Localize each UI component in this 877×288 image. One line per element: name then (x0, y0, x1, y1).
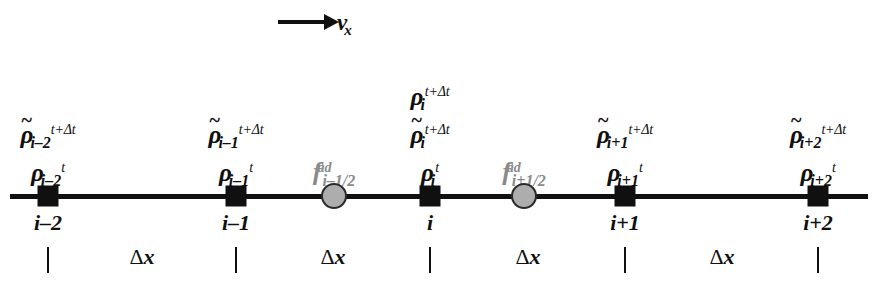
spacing-label-0: Δx (129, 244, 154, 270)
spacing-tick-i (429, 247, 431, 273)
velocity-subscript: x (344, 22, 352, 38)
spacing-tick-i-2 (47, 247, 49, 273)
node-index-label-i-2: i–2 (34, 210, 62, 236)
spacing-tick-i+2 (817, 247, 819, 273)
spacing-tick-i+1 (624, 247, 626, 273)
velocity-label: vx (337, 10, 352, 39)
density-label-i-2-intermediate-0: ~ρi–2t+Δt (21, 122, 76, 151)
spacing-tick-i-1 (235, 247, 237, 273)
spacing-label-1: Δx (320, 244, 345, 270)
node-index-label-i: i (427, 210, 433, 236)
density-label-i-intermediate-1: ~ρit+Δt (411, 122, 450, 151)
flux-node-marker-i+1/2 (511, 183, 537, 209)
grid-node-marker-i (420, 186, 441, 207)
node-index-label-i-1: i–1 (222, 210, 250, 236)
grid-node-marker-i+1 (615, 186, 636, 207)
grid-node-marker-i-2 (38, 186, 59, 207)
spacing-label-2: Δx (515, 244, 540, 270)
velocity-arrow-shaft (278, 20, 326, 24)
grid-node-marker-i+2 (808, 186, 829, 207)
spacing-label-3: Δx (709, 244, 734, 270)
density-label-i-1-intermediate-0: ~ρi–1t+Δt (209, 122, 264, 151)
flux-node-marker-i-1/2 (321, 183, 347, 209)
density-label-i+2-intermediate-0: ~ρi+2t+Δt (790, 122, 846, 151)
node-index-label-i+2: i+2 (803, 210, 833, 236)
node-index-label-i+1: i+1 (610, 210, 640, 236)
density-label-i+1-intermediate-0: ~ρi+1t+Δt (597, 122, 653, 151)
grid-node-marker-i-1 (226, 186, 247, 207)
advection-stencil-diagram: vx ~ρi–2t+Δtρi–2ti–2~ρi–1t+Δtρi–1ti–1ρit… (0, 0, 877, 288)
